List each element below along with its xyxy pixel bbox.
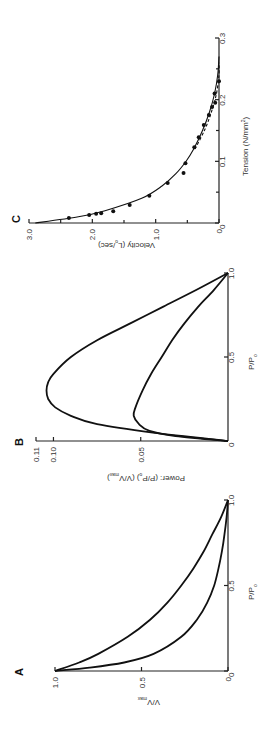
panel-a-ylabel: V/Vmax: [137, 696, 160, 707]
panel-c-x-tick-label: 0.2: [218, 94, 227, 106]
figure: C 00.10.20.301.02.03.0 Tension (N/mm2) V…: [0, 0, 265, 731]
panel-c-data-point: [87, 213, 91, 217]
panel-c-data-point: [207, 113, 211, 117]
panel-c-series-0: [35, 57, 219, 224]
panel-c-x-tick-label: 0.3: [218, 32, 227, 44]
panel-a-y-tick-label: 1.0: [51, 676, 60, 688]
panel-c-data-point: [166, 181, 170, 185]
panel-letter-c: C: [10, 215, 22, 223]
panel-a-curves: [55, 500, 228, 671]
panel-c-data-point: [182, 171, 186, 175]
panel-b-xlabel: P/Po: [247, 354, 258, 370]
panel-c-data-point: [67, 216, 71, 220]
panel-c-y-tick-label: 2.0: [88, 228, 97, 240]
panel-c-data-point: [128, 203, 132, 207]
panel-c-data-point: [192, 145, 196, 149]
panel-a-xlabel: P/Po: [247, 584, 258, 600]
panel-c-data-point: [202, 123, 206, 127]
panel-c-data-point: [210, 105, 214, 109]
panel-c-points: [67, 79, 221, 220]
panel-c-y-tick-label: 3.0: [25, 228, 34, 240]
panel-c-data-point: [99, 211, 103, 215]
panel-a-y-tick-label: 0.5: [138, 676, 147, 688]
panel-c-x-tick-label: 0.1: [218, 156, 227, 168]
panel-c-curves: [35, 57, 219, 224]
panel-b-x-tick-label: 1.0: [227, 267, 236, 279]
panel-a-ticks: 00.51.000.51.0: [51, 494, 236, 688]
panel-c-data-point: [197, 135, 201, 139]
panel-a-x-tick-label: 0.5: [227, 580, 236, 592]
panel-c-data-point: [183, 161, 187, 165]
panel-b: B 00.51.00.050.100.11 P/Po Power: (P/Po)…: [13, 267, 258, 483]
panel-b-x-tick-label: 0: [227, 442, 236, 447]
panel-a-y-tick-label: 0: [224, 676, 233, 681]
panel-c-xlabel: Tension (N/mm2): [240, 116, 250, 176]
panel-c-ticks: 00.10.20.301.02.03.0: [25, 32, 227, 240]
panel-b-y-tick-label: 0.05: [137, 446, 146, 462]
panel-a: A 00.51.000.51.0 P/Po V/Vmax: [13, 494, 258, 707]
panel-b-series-0: [47, 273, 229, 441]
panel-b-axes: [36, 273, 228, 441]
panel-c-data-point: [111, 209, 115, 213]
panel-c: C 00.10.20.301.02.03.0 Tension (N/mm2) V…: [10, 32, 250, 250]
panel-c-ylabel: Velocity (Lo/sec): [98, 239, 155, 250]
panel-c-y-tick-label: 0: [215, 228, 224, 233]
panel-b-y-tick-label: 0.11: [32, 446, 41, 462]
panel-a-series-1: [55, 500, 228, 671]
panel-b-y-tick-label: 0.10: [49, 446, 58, 462]
panel-letter-a: A: [13, 668, 25, 676]
panel-c-data-point: [213, 92, 217, 96]
panel-c-data-point: [217, 79, 221, 83]
panel-b-x-tick-label: 0.5: [227, 351, 236, 363]
panel-letter-b: B: [13, 438, 25, 446]
panel-a-x-tick-label: 0: [227, 672, 236, 677]
panel-c-y-tick-label: 1.0: [152, 228, 161, 240]
panel-b-curves: [47, 273, 229, 441]
panel-c-data-point: [94, 212, 98, 216]
panel-c-data-point: [147, 194, 151, 198]
panel-c-x-tick-label: 0: [218, 224, 227, 229]
panel-b-ylabel: Power: (P/Po) (V/Vmax): [107, 472, 185, 483]
panel-c-data-point: [213, 101, 217, 105]
panel-a-series-0: [55, 500, 228, 671]
panel-c-axes: [29, 38, 219, 223]
panel-a-axes: [55, 500, 228, 671]
